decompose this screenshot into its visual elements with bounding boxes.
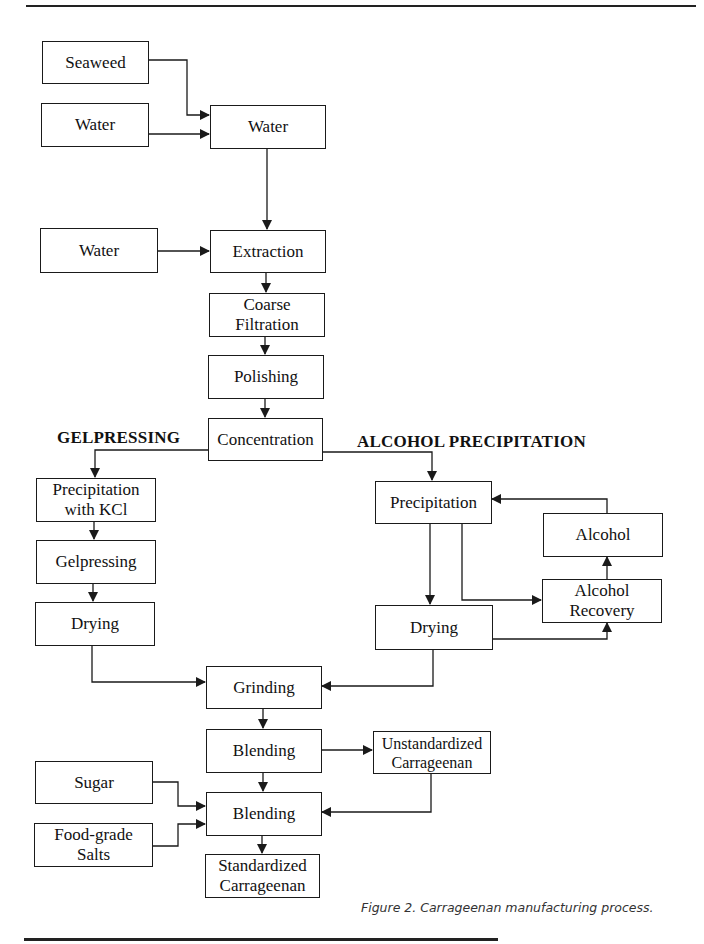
node-label: Gelpressing xyxy=(55,552,136,572)
node-polishing: Polishing xyxy=(208,355,324,399)
node-water-input-2: Water xyxy=(40,228,158,273)
node-standardized-carrageenan: Standardized Carrageenan xyxy=(205,854,320,898)
node-unstandardized-carrageenan: Unstandardized Carrageenan xyxy=(373,731,491,774)
node-label: Blending xyxy=(233,804,295,824)
edge-precip-recovery xyxy=(462,523,541,600)
node-label: Seaweed xyxy=(65,53,125,73)
node-label-line-2: Recovery xyxy=(569,601,634,621)
node-concentration: Concentration xyxy=(208,418,323,461)
node-precipitation-alcohol: Precipitation xyxy=(375,481,492,524)
node-label: Sugar xyxy=(74,773,114,793)
edge-drying-grinding-right xyxy=(322,649,433,686)
edge-seaweed-water xyxy=(148,60,209,115)
node-label: Concentration xyxy=(217,430,313,450)
node-label: Drying xyxy=(71,614,119,634)
node-blending-2: Blending xyxy=(206,792,322,836)
node-drying-alcohol: Drying xyxy=(375,605,493,650)
node-drying-gel: Drying xyxy=(35,602,155,646)
node-food-grade-salts: Food-grade Salts xyxy=(34,823,153,867)
node-sugar: Sugar xyxy=(35,761,153,804)
node-label-line-1: Standardized xyxy=(218,856,307,876)
node-label-line-1: Coarse xyxy=(243,295,290,315)
edge-concentration-precip-kcl xyxy=(95,450,208,477)
node-label-line-2: Carrageenan xyxy=(392,753,473,772)
node-label-line-1: Unstandardized xyxy=(382,734,482,753)
node-gelpressing: Gelpressing xyxy=(36,540,156,584)
node-water-input-1: Water xyxy=(41,103,149,147)
node-label-line-1: Food-grade xyxy=(54,825,132,845)
node-label: Drying xyxy=(410,618,458,638)
edge-salts-blending2 xyxy=(152,824,205,846)
edge-concentration-precip-alcohol xyxy=(322,452,432,480)
node-label: Grinding xyxy=(233,678,294,698)
section-label-alcohol-precipitation: ALCOHOL PRECIPITATION xyxy=(357,432,586,452)
node-seaweed: Seaweed xyxy=(42,41,149,84)
edge-drying-grinding-left xyxy=(92,645,205,682)
node-coarse-filtration: Coarse Filtration xyxy=(209,293,325,337)
node-alcohol: Alcohol xyxy=(543,513,663,557)
node-label: Polishing xyxy=(234,367,298,387)
node-label: Alcohol xyxy=(576,525,631,545)
edge-sugar-blending2 xyxy=(152,782,205,806)
node-label-line-2: Carrageenan xyxy=(220,876,306,896)
edge-unstandardized-blending2 xyxy=(322,773,431,812)
node-label: Water xyxy=(75,115,115,135)
node-extraction: Extraction xyxy=(210,230,326,273)
node-alcohol-recovery: Alcohol Recovery xyxy=(542,579,662,623)
node-label: Water xyxy=(79,241,119,261)
node-blending-1: Blending xyxy=(206,729,322,773)
node-label-line-2: Salts xyxy=(77,845,110,865)
node-label-line-2: Filtration xyxy=(235,315,298,335)
node-label-line-2: with KCl xyxy=(65,500,128,520)
node-label: Water xyxy=(248,117,288,137)
section-label-gelpressing: GELPRESSING xyxy=(57,428,180,448)
node-grinding: Grinding xyxy=(206,666,322,709)
node-label: Precipitation xyxy=(390,493,477,513)
edge-alcohol-precip xyxy=(492,499,607,513)
node-water-mix: Water xyxy=(210,105,326,149)
edge-drying-recovery xyxy=(492,623,607,639)
node-label-line-1: Precipitation xyxy=(53,480,140,500)
bottom-rule xyxy=(24,938,498,941)
node-label-line-1: Alcohol xyxy=(575,581,630,601)
figure-caption: Figure 2. Carrageenan manufacturing proc… xyxy=(361,900,654,915)
top-rule xyxy=(26,5,696,7)
node-precipitation-kcl: Precipitation with KCl xyxy=(36,478,156,522)
node-label: Extraction xyxy=(233,242,304,262)
node-label: Blending xyxy=(233,741,295,761)
